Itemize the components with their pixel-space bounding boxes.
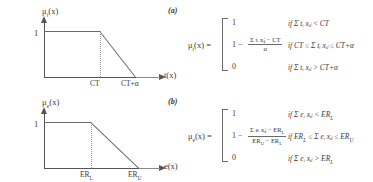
fraction-numerator: Σ eᵢ xᵢⱼ − ERL: [248, 126, 286, 136]
panel-tag-a: (a): [168, 6, 177, 15]
case-a-2-fraction: Σ tᵢ xᵢⱼ − CT α: [248, 36, 282, 53]
y-tick-one: 1: [34, 28, 38, 38]
case-a-3: 0: [232, 62, 236, 71]
panel-tag-b: (b): [168, 97, 177, 106]
panel-b: μe(x) 1 ERL ERU e(x) (b) μe(x) = 1 1 − Σ…: [0, 91, 373, 182]
y-tick-one: 1: [34, 119, 38, 129]
guide-line-erl: [91, 122, 92, 168]
case-a-1: 1: [232, 18, 236, 27]
brace-b: [222, 109, 229, 161]
case-b-3: 0: [232, 153, 236, 162]
fraction-denominator: α: [248, 44, 282, 53]
x-axis-label: t(x): [164, 70, 176, 80]
formula-lhs-a: μt(x) =: [188, 40, 211, 52]
condition-b-2: if ERL ≤ Σ eᵢ xᵢⱼ ≤ ERU: [288, 132, 353, 143]
x-tick-1: ERU: [128, 170, 142, 181]
condition-a-2: if CT ≤ Σ tᵢ xᵢⱼ ≤ CT+α: [288, 41, 354, 50]
x-axis-label: e(x): [164, 161, 178, 171]
x-tick-0: CT: [90, 79, 100, 88]
curve-ramp: [99, 31, 136, 78]
condition-a-1: if Σ tᵢ xᵢⱼ < CT: [288, 19, 329, 28]
brace-a: [222, 18, 229, 70]
membership-chart-b: μe(x) 1 ERL ERU e(x): [18, 97, 170, 177]
y-axis-label: μt(x): [42, 6, 59, 18]
case-b-2-fraction: Σ eᵢ xᵢⱼ − ERL ERU − ERL: [248, 126, 286, 147]
curve-plateau: [44, 122, 91, 123]
membership-chart-a: μt(x) 1 CT CT+α t(x): [18, 6, 170, 86]
fraction-denominator: ERU − ERL: [248, 136, 286, 147]
condition-a-3: if Σ tᵢ xᵢⱼ > CT+α: [288, 63, 338, 72]
guide-line-ct: [100, 31, 101, 77]
case-b-2-lead: 1 −: [232, 131, 243, 140]
case-a-2-lead: 1 −: [232, 40, 243, 49]
curve-tail: [139, 168, 160, 169]
curve-plateau: [44, 31, 100, 32]
y-axis-label: μe(x): [42, 97, 59, 109]
fraction-numerator: Σ tᵢ xᵢⱼ − CT: [248, 36, 282, 44]
x-tick-0: ERL: [80, 170, 93, 181]
case-b-1: 1: [232, 109, 236, 118]
curve-ramp: [90, 122, 139, 169]
panel-a: μt(x) 1 CT CT+α t(x) (a) μt(x) = 1 1 − Σ…: [0, 0, 373, 91]
condition-b-3: if Σ eᵢ xᵢⱼ > ERL: [288, 154, 333, 165]
curve-tail: [136, 77, 160, 78]
formula-lhs-b: μe(x) =: [188, 131, 212, 143]
condition-b-1: if Σ eᵢ xᵢⱼ < ERL: [288, 110, 333, 121]
x-tick-1: CT+α: [121, 79, 139, 88]
